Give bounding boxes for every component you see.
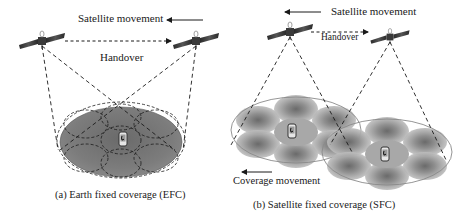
satellite-movement-label-b: Satellite movement — [331, 6, 416, 17]
panel-a-efc — [19, 20, 219, 178]
mobile-phone-icon — [119, 132, 127, 146]
mobile-phone-icon — [381, 147, 389, 161]
satellite-movement-label-a: Satellite movement — [78, 13, 163, 24]
handover-label-b: Handover — [321, 33, 358, 43]
caption-b: (b) Satellite fixed coverage (SFC) — [253, 200, 395, 211]
mobile-phone-icon — [288, 124, 296, 138]
satellite-icon — [370, 29, 409, 44]
coverage-movement-label: Coverage movement — [233, 176, 320, 187]
handover-label-a: Handover — [100, 52, 143, 63]
caption-a: (a) Earth fixed coverage (EFC) — [55, 190, 186, 201]
